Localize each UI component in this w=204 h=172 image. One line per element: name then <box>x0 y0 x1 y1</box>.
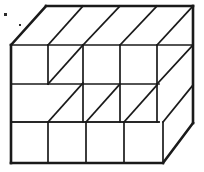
cube-figure-container <box>0 0 204 172</box>
scan-speck-1 <box>4 13 7 16</box>
scan-speck-2 <box>19 24 21 26</box>
cube-stack-drawing <box>0 0 204 172</box>
